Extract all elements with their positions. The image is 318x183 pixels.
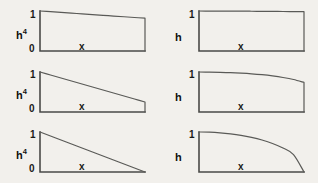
y-axis-label-top-left: h4 — [16, 30, 27, 41]
y-tick-one-middle-right: 1 — [189, 70, 195, 80]
curve-middle-right — [199, 72, 304, 112]
x-axis-label-middle-right: x — [238, 102, 244, 112]
plot-svg-top-right — [159, 0, 318, 62]
y-axis-label-middle-left: h4 — [16, 90, 27, 101]
plot-top-left: h4 1 0 x — [0, 0, 159, 62]
y-tick-one-middle-left: 1 — [30, 70, 36, 80]
y-tick-one-bottom-right: 1 — [189, 130, 195, 140]
plot-bottom-right: h 1 x — [159, 121, 318, 183]
figure-panel-grid: h4 1 0 x h 1 x h4 1 0 x h 1 x — [0, 0, 318, 183]
x-axis-label-middle-left: x — [79, 102, 85, 112]
y-axis-exponent-top-left: 4 — [23, 27, 27, 36]
curve-top-right — [199, 11, 304, 51]
y-axis-label-middle-right: h — [175, 92, 182, 103]
x-axis-label-top-left: x — [79, 42, 85, 52]
plot-middle-right: h 1 x — [159, 61, 318, 122]
x-axis-label-top-right: x — [238, 42, 244, 52]
curve-bottom-left — [40, 132, 145, 172]
y-tick-one-top-right: 1 — [189, 10, 195, 20]
y-axis-exponent-middle-left: 4 — [23, 87, 27, 96]
y-tick-one-bottom-left: 1 — [30, 130, 36, 140]
curve-middle-left — [40, 72, 145, 112]
y-axis-label-bottom-right: h — [175, 152, 182, 163]
y-axis-label-top-right: h — [175, 32, 182, 43]
y-tick-zero-top-left: 0 — [29, 44, 35, 54]
x-axis-label-bottom-right: x — [238, 162, 244, 172]
y-axis-label-bottom-left: h4 — [16, 150, 27, 161]
y-tick-one-top-left: 1 — [30, 10, 36, 20]
plot-svg-middle-right — [159, 61, 318, 122]
y-tick-zero-middle-left: 0 — [29, 104, 35, 114]
axes-top-right — [199, 11, 304, 51]
y-tick-zero-bottom-left: 0 — [29, 164, 35, 174]
axes-bottom-right — [199, 132, 304, 172]
plot-middle-left: h4 1 0 x — [0, 61, 159, 122]
plot-top-right: h 1 x — [159, 0, 318, 62]
y-axis-exponent-bottom-left: 4 — [23, 147, 27, 156]
x-axis-label-bottom-left: x — [79, 162, 85, 172]
plot-bottom-left: h4 1 0 x — [0, 121, 159, 183]
curve-top-left — [40, 11, 145, 51]
curve-bottom-right — [199, 132, 304, 172]
axes-middle-left — [40, 72, 145, 112]
plot-svg-bottom-right — [159, 121, 318, 183]
